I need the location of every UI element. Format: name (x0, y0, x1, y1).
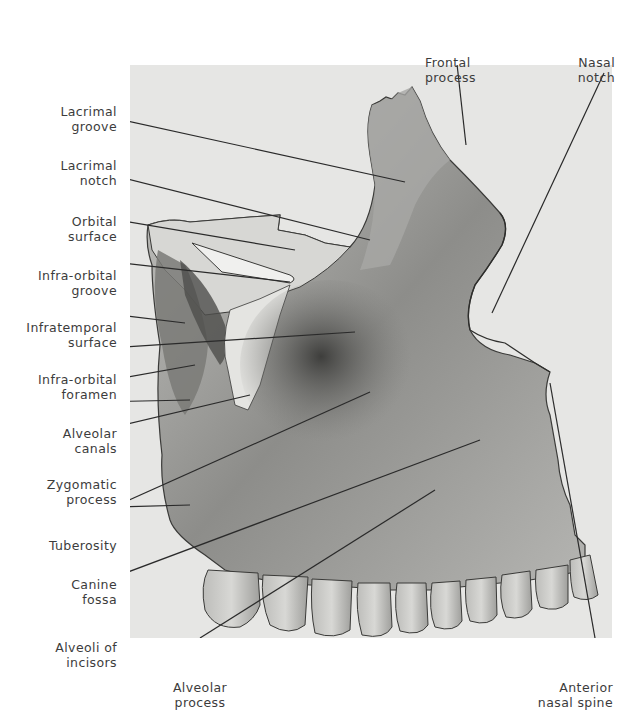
maxilla-illustration (130, 65, 612, 638)
canine-fossa-shape (240, 280, 420, 450)
label-nasal-notch: Nasalnotch (540, 25, 615, 100)
label-anterior-nasal-spine: Anteriornasal spine (510, 650, 613, 714)
label-alveoli-of-incisors: Alveoli ofincisors (0, 610, 117, 685)
label-alveolar-process: Alveolarprocess (150, 650, 250, 714)
label-frontal-process: Frontalprocess (425, 25, 476, 100)
illustration-panel (130, 65, 612, 638)
